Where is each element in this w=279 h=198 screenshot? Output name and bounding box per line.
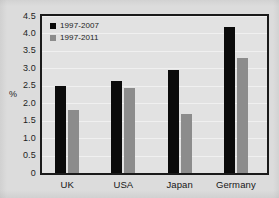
y-axis-tick-label: 3.5 <box>2 46 36 55</box>
x-axis-tick-label-japan: Japan <box>150 180 210 190</box>
bar-uk-series-1 <box>68 110 79 173</box>
bar-usa-series-0 <box>111 81 122 173</box>
x-axis-tick-label-usa: USA <box>93 180 153 190</box>
y-axis-tick-label: 4.0 <box>2 29 36 38</box>
y-axis-label: % <box>6 90 20 99</box>
bar-group <box>211 16 267 173</box>
bar-uk-series-0 <box>55 86 66 173</box>
bar-group <box>155 16 211 173</box>
x-axis-tick-label-uk: UK <box>37 180 97 190</box>
bar-japan-series-0 <box>168 70 179 173</box>
y-axis-tick-label: 2.5 <box>2 81 36 90</box>
y-axis-tick-label: 2.0 <box>2 99 36 108</box>
y-axis-tick-label: 1.5 <box>2 116 36 125</box>
plot-area: 1997-2007 1997-2011 <box>40 14 269 175</box>
bar-germany-series-0 <box>224 27 235 173</box>
bar-germany-series-1 <box>237 58 248 173</box>
y-axis-tick-label: 0.5 <box>2 151 36 160</box>
y-axis-tick-label: 4.5 <box>2 12 36 21</box>
legend-label-series-0: 1997-2007 <box>60 22 99 30</box>
legend-swatch-icon-series-0 <box>50 23 56 29</box>
y-axis-tick-label: 3.0 <box>2 64 36 73</box>
y-axis-tick-label: 0 <box>2 169 36 178</box>
bar-usa-series-1 <box>124 88 135 173</box>
y-axis-tick-label: 1.0 <box>2 134 36 143</box>
plot-inner: 1997-2007 1997-2011 <box>42 16 267 173</box>
bar-group <box>98 16 154 173</box>
chart-legend: 1997-2007 1997-2011 <box>50 21 99 42</box>
bar-japan-series-1 <box>181 114 192 173</box>
legend-swatch-icon-series-1 <box>50 35 56 41</box>
legend-item-series-0: 1997-2007 <box>50 21 99 30</box>
x-axis-tick-label-germany: Germany <box>206 180 266 190</box>
legend-label-series-1: 1997-2011 <box>60 34 99 42</box>
legend-item-series-1: 1997-2011 <box>50 33 99 42</box>
bar-chart-figure: % 00.51.01.52.02.53.03.54.04.5 1997-2007… <box>0 0 279 198</box>
